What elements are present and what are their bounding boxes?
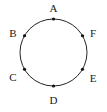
point-label-c: C — [9, 72, 16, 83]
point-label-a: A — [50, 3, 58, 14]
point-marker-b — [23, 34, 26, 37]
point-label-f: F — [90, 28, 96, 39]
point-label-e: E — [90, 73, 97, 84]
point-markers-group — [23, 17, 84, 87]
point-marker-a — [52, 17, 55, 20]
circle-diagram: AFEDCB — [0, 0, 107, 112]
point-marker-c — [23, 68, 26, 71]
point-marker-d — [52, 84, 55, 87]
circle-outline — [20, 19, 87, 86]
point-label-b: B — [9, 28, 16, 39]
point-marker-f — [81, 34, 84, 37]
point-marker-e — [81, 68, 84, 71]
point-label-d: D — [50, 95, 58, 106]
